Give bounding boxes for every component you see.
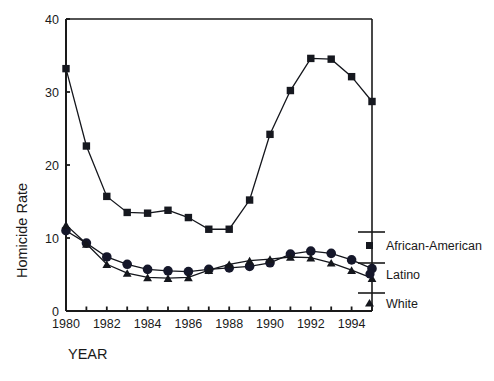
data-point-square (246, 196, 253, 203)
data-point-square (226, 226, 233, 233)
data-point-square (62, 65, 69, 72)
data-point-circle (163, 266, 173, 276)
series-african-american (62, 55, 375, 233)
chart-figure: 0 10 20 30 40 19801982198419861988199019… (0, 0, 494, 381)
data-point-circle (326, 249, 336, 259)
x-tick-label: 1994 (338, 317, 366, 331)
data-point-triangle (327, 259, 336, 267)
homicide-rate-line-chart: 0 10 20 30 40 19801982198419861988199019… (0, 0, 494, 381)
data-point-square (83, 142, 90, 149)
data-point-square (185, 214, 192, 221)
x-tick-label: 1984 (134, 317, 162, 331)
legend-label: Latino (386, 268, 420, 282)
y-axis-title: Homicide Rate (14, 183, 30, 278)
legend-label: African-American (386, 239, 482, 253)
y-tick-label: 20 (45, 159, 59, 173)
y-tick-label: 10 (45, 232, 59, 246)
square-marker-icon (366, 242, 373, 249)
x-tick-label: 1980 (52, 317, 80, 331)
data-point-triangle (347, 266, 356, 274)
data-point-square (348, 73, 355, 80)
y-tick-label: 30 (45, 86, 59, 100)
legend-entry-african-american[interactable]: African-American (358, 232, 482, 253)
x-tick-label: 1982 (93, 317, 121, 331)
legend-entry-latino[interactable]: Latino (358, 263, 420, 282)
data-point-triangle (62, 221, 71, 229)
legend-entry-white[interactable]: White (358, 293, 418, 311)
y-tick-label: 40 (45, 13, 59, 27)
x-tick-label: 1988 (215, 317, 243, 331)
legend-label: White (386, 297, 418, 311)
legend: African-American Latino White (358, 232, 482, 311)
data-point-square (144, 209, 151, 216)
circle-marker-icon (365, 269, 374, 278)
series-line (66, 225, 372, 278)
data-point-circle (122, 259, 132, 269)
series-latino (61, 226, 377, 276)
x-tick-label: 1986 (174, 317, 202, 331)
data-point-square (164, 207, 171, 214)
x-axis-tick-labels: 19801982198419861988199019921994 (52, 317, 365, 331)
x-tick-label: 1992 (297, 317, 325, 331)
data-point-square (307, 55, 314, 62)
data-point-square (266, 131, 273, 138)
x-axis-title: YEAR (68, 346, 108, 362)
series-line (66, 58, 372, 229)
data-point-circle (347, 255, 357, 265)
data-point-square (205, 226, 212, 233)
data-point-square (368, 98, 375, 105)
data-point-square (103, 193, 110, 200)
x-tick-label: 1990 (256, 317, 284, 331)
series-layer (61, 55, 377, 282)
data-point-circle (143, 265, 153, 275)
data-point-square (287, 87, 294, 94)
series-line (66, 231, 372, 272)
data-point-square (124, 209, 131, 216)
data-point-square (328, 55, 335, 62)
